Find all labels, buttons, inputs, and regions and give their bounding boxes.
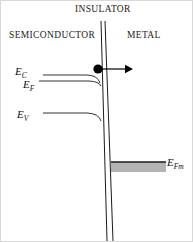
energy-line-ev: [43, 113, 101, 121]
energy-line-ec: [43, 75, 100, 83]
energy-line-ef: [39, 81, 101, 86]
electron-marker: [93, 64, 102, 73]
band-diagram-figure: INSULATOR SEMICONDUCTOR METAL EC EF EV E…: [0, 0, 193, 242]
metal-fermi-sea-fill: [111, 162, 166, 172]
band-diagram-canvas: [1, 1, 193, 242]
tunneling-arrow-head: [125, 65, 133, 73]
